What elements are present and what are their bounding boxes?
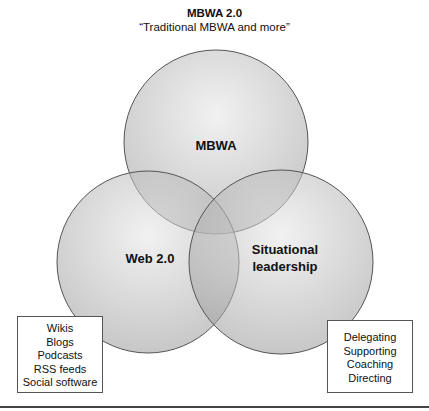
list-item: Coaching [328, 358, 412, 372]
label-web20: Web 2.0 [110, 250, 190, 267]
list-item: RSS feeds [18, 363, 102, 377]
leadership-styles-box: Delegating Supporting Coaching Directing [327, 320, 413, 393]
label-mbwa: MBWA [176, 137, 256, 154]
label-leadership: leadership [235, 258, 335, 275]
list-item: Social software [18, 376, 102, 390]
list-item: Directing [328, 372, 412, 386]
label-situational: Situational [235, 241, 335, 258]
list-item: Delegating [328, 331, 412, 345]
web20-tools-box: Wikis Blogs Podcasts RSS feeds Social so… [17, 316, 103, 393]
list-item: Podcasts [18, 349, 102, 363]
bottom-divider [0, 406, 429, 408]
label-situational-leadership: Situational leadership [235, 241, 335, 275]
list-item: Wikis [18, 322, 102, 336]
list-item: Blogs [18, 336, 102, 350]
list-item: Supporting [328, 345, 412, 359]
